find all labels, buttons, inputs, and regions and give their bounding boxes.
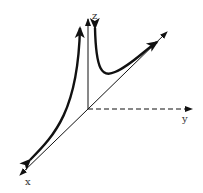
y-label: y (181, 113, 188, 124)
x-axis (20, 109, 88, 175)
x-label: x (25, 176, 31, 187)
3d-axes-diagram: z y x (0, 0, 203, 193)
z-label: z (92, 10, 97, 21)
left-curve (30, 28, 80, 160)
